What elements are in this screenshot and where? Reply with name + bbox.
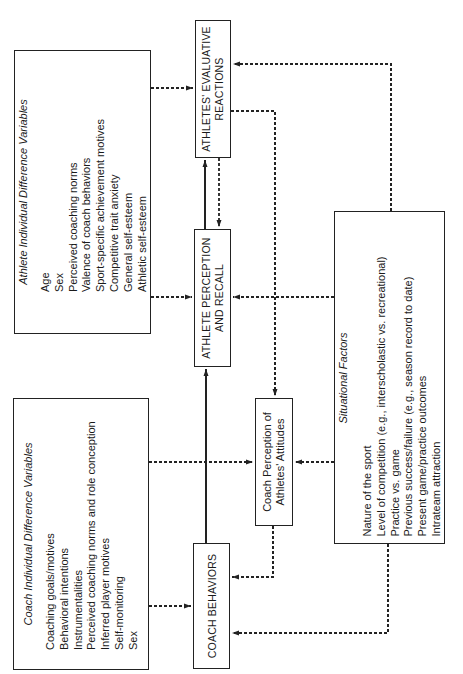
athlete-variables-title: Athlete Individual Difference Variables xyxy=(16,54,28,330)
situational-factors-title: Situational Factors xyxy=(336,215,348,540)
coach-variable-item: Inferred player motives xyxy=(99,402,113,650)
coach-variables-title: Coach Individual Difference Variables xyxy=(22,402,34,666)
evaluative-reactions-label: ATHLETES' EVALUATIVE REACTIONS xyxy=(200,26,226,152)
situational-factor-item: Previous success/failure (e.g., season r… xyxy=(402,215,416,536)
situational-factor-item: Present game/practice outcomes xyxy=(415,215,429,536)
athlete-perception-line2: AND RECALL xyxy=(213,237,226,358)
situational-factors-content: Situational Factors Nature of the sport … xyxy=(336,215,443,540)
athlete-variable-item: Sport-specific achievement motives xyxy=(94,54,108,292)
coach-variables-box: Coach Individual Difference Variables Co… xyxy=(13,398,149,670)
coach-variable-item: Sex xyxy=(126,402,140,650)
coach-behaviors-label: COACH BEHAVIORS xyxy=(205,554,218,658)
athlete-perception-label: ATHLETE PERCEPTION AND RECALL xyxy=(200,237,226,358)
athlete-perception-box: ATHLETE PERCEPTION AND RECALL xyxy=(194,229,231,367)
situational-factors-box: Situational Factors Nature of the sport … xyxy=(334,211,445,544)
arrow-coach-perception-to-behaviors xyxy=(232,526,273,577)
arrow-situational-to-coach-behaviors xyxy=(232,544,388,633)
athlete-variables-content: Athlete Individual Difference Variables … xyxy=(16,54,148,330)
coach-variable-item: Perceived coaching norms and role concep… xyxy=(85,402,99,650)
coach-perception-line2: Athletes' Attitudes xyxy=(274,412,287,512)
athlete-variable-item: Competitive trait anxiety xyxy=(107,54,121,292)
coach-perception-box: Coach Perception of Athletes' Attitudes xyxy=(255,398,293,526)
coach-variables-content: Coach Individual Difference Variables Co… xyxy=(22,402,141,666)
evaluative-reactions-line1: ATHLETES' EVALUATIVE xyxy=(200,26,213,152)
coach-perception-label: Coach Perception of Athletes' Attitudes xyxy=(261,412,287,512)
coach-variable-item: Instrumentalities xyxy=(71,402,85,650)
arrow-evaluative-to-coach-perception xyxy=(231,111,275,396)
situational-factor-item: Intrateam attraction xyxy=(429,215,443,536)
athlete-variable-item: Sex xyxy=(52,54,66,292)
athlete-variable-item: Valence of coach behaviors xyxy=(80,54,94,292)
coach-perception-line1: Coach Perception of xyxy=(261,412,274,512)
athlete-variables-box: Athlete Individual Difference Variables … xyxy=(14,50,151,334)
athlete-variable-item: General self-esteem xyxy=(121,54,135,292)
arrow-situational-to-evaluative xyxy=(233,64,391,211)
coach-behaviors-line1: COACH BEHAVIORS xyxy=(205,554,218,658)
coach-behaviors-box: COACH BEHAVIORS xyxy=(193,543,230,669)
evaluative-reactions-box: ATHLETES' EVALUATIVE REACTIONS xyxy=(195,20,231,158)
coach-variable-item: Self-monitoring xyxy=(113,402,127,650)
coach-variable-item: Behavioral intentions xyxy=(58,402,72,650)
athlete-variable-item: Perceived coaching norms xyxy=(66,54,80,292)
athlete-perception-line1: ATHLETE PERCEPTION xyxy=(200,237,213,358)
coach-variable-item: Coaching goals/motives xyxy=(44,402,58,650)
athlete-variable-item: Age xyxy=(38,54,52,292)
evaluative-reactions-line2: REACTIONS xyxy=(213,26,226,152)
athlete-variable-item: Athletic self-esteem xyxy=(135,54,149,292)
situational-factor-item: Level of competition (e.g., interscholas… xyxy=(374,215,388,536)
situational-factor-item: Practice vs. game xyxy=(388,215,402,536)
situational-factor-item: Nature of the sport xyxy=(360,215,374,536)
